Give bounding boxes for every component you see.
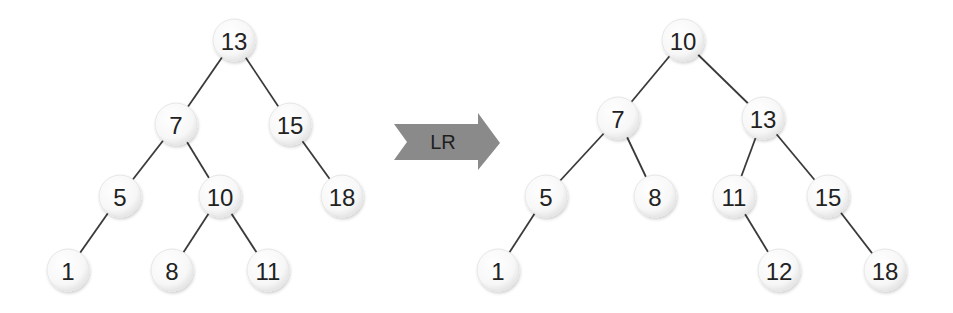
- before-node-8: 8: [151, 249, 193, 291]
- node-label: 1: [61, 258, 74, 285]
- after-node-5: 5: [525, 175, 567, 217]
- after-node-1: 1: [477, 249, 519, 291]
- node-label: 5: [113, 184, 126, 211]
- node-label: 12: [766, 258, 793, 285]
- after-node-8: 8: [634, 175, 676, 217]
- lr-rotation-arrow: LR: [394, 113, 500, 170]
- after-node-12: 12: [758, 249, 800, 291]
- node-label: 7: [611, 106, 624, 133]
- after-tree-edges: [498, 40, 885, 270]
- after-node-10: 10: [662, 19, 704, 61]
- before-node-11: 11: [247, 249, 289, 291]
- avl-rotation-diagram: 13715510181811 1071358111511218 LR: [0, 0, 953, 313]
- node-label: 15: [815, 184, 842, 211]
- node-label: 10: [670, 28, 697, 55]
- node-label: 15: [277, 112, 304, 139]
- after-node-11: 11: [713, 175, 755, 217]
- node-label: 11: [256, 258, 281, 285]
- node-label: 18: [872, 258, 899, 285]
- node-label: 11: [722, 184, 747, 211]
- after-node-15: 15: [807, 175, 849, 217]
- rotation-label: LR: [430, 131, 456, 153]
- before-node-5: 5: [99, 175, 141, 217]
- node-label: 1: [491, 258, 504, 285]
- node-label: 13: [221, 28, 248, 55]
- before-tree: 13715510181811: [47, 19, 363, 291]
- before-tree-edges: [68, 40, 342, 270]
- before-node-18: 18: [321, 175, 363, 217]
- after-node-7: 7: [597, 97, 639, 139]
- node-label: 10: [207, 184, 234, 211]
- before-node-13: 13: [213, 19, 255, 61]
- after-node-13: 13: [742, 97, 784, 139]
- node-label: 7: [169, 112, 182, 139]
- node-label: 5: [539, 184, 552, 211]
- node-label: 13: [750, 106, 777, 133]
- after-node-18: 18: [864, 249, 906, 291]
- node-label: 18: [329, 184, 356, 211]
- before-node-15: 15: [269, 103, 311, 145]
- after-tree: 1071358111511218: [477, 19, 906, 291]
- before-node-7: 7: [155, 103, 197, 145]
- node-label: 8: [648, 184, 661, 211]
- node-label: 8: [165, 258, 178, 285]
- before-node-1: 1: [47, 249, 89, 291]
- before-node-10: 10: [199, 175, 241, 217]
